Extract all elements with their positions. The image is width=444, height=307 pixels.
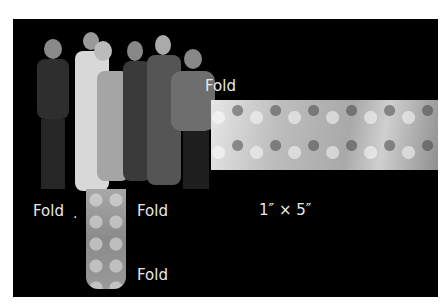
fabric-strip-horizontal: [211, 100, 438, 170]
dimensions-label: 1″ × 5″: [259, 201, 311, 219]
fold-label-left: Fold: [33, 202, 64, 220]
fabric-strip-vertical: [86, 189, 126, 289]
fold-label-middle: Fold: [137, 202, 168, 220]
group-photo-people: [23, 31, 223, 201]
black-panel: Fold Fold . Fold Fold 1″ × 5″: [13, 19, 438, 297]
fold-label-left-dot: .: [73, 205, 77, 221]
fold-label-bottom: Fold: [137, 266, 168, 284]
fold-label-top-right: Fold: [205, 77, 236, 95]
